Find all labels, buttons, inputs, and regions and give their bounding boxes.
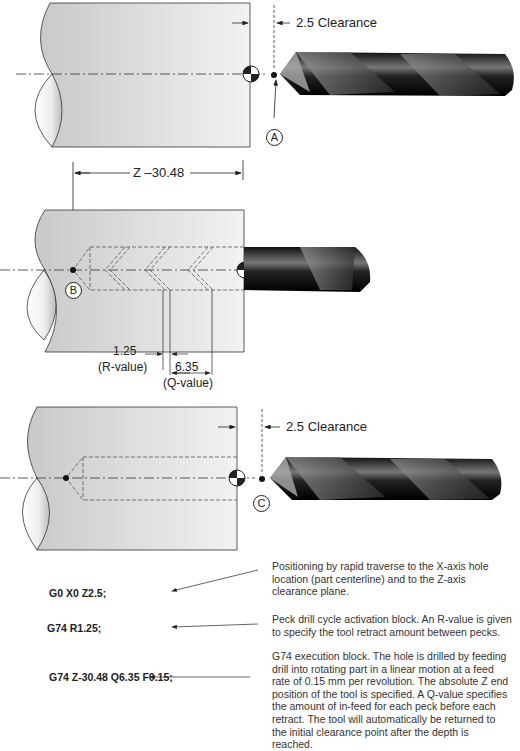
drill-icon [244,247,370,292]
r-value-number: 1.25 [113,344,136,358]
drill-icon [270,457,501,500]
code-line-3: G74 Z-30.48 Q6.35 F0.15; [49,671,173,683]
panel-a [16,3,514,147]
code-desc-1: Positioning by rapid traverse to the X-a… [272,560,512,598]
code-desc-3: G74 execution block. The hole is drilled… [272,650,512,751]
point-label-a: A [266,129,283,146]
point-label-b: B [65,282,82,299]
code-desc-2: Peck drill cycle activation block. An R-… [272,613,512,638]
callout-arrow-1 [172,570,258,591]
z-depth-dimension: Z –30.48 [133,165,184,180]
q-value-label: (Q-value) [163,376,213,390]
footer-caption-cutoff [0,742,520,748]
r-value-label: (R-value) [98,360,147,374]
target-symbol-icon [243,66,259,82]
clearance-label-a: 2.5 Clearance [296,15,377,30]
point-label-c: C [253,495,270,512]
panel-c [0,407,501,550]
clearance-label-c: 2.5 Clearance [286,419,367,434]
code-line-1: G0 X0 Z2.5; [49,587,106,599]
callout-arrow-2 [172,624,258,627]
drill-icon [280,52,514,96]
target-symbol-icon [229,470,245,486]
panel-b [0,160,370,375]
q-value-number: 6.35 [175,360,198,374]
code-line-2: G74 R1.25; [47,622,101,634]
